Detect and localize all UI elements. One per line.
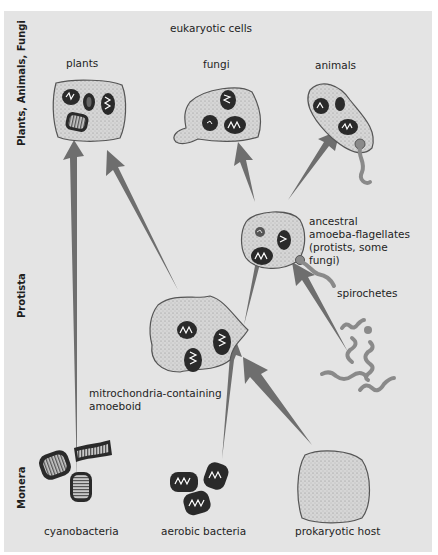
arrow-cyanobacteria-to-plants xyxy=(63,140,84,482)
cyanobacteria-group xyxy=(36,440,112,502)
kingdom-label-monera: Monera xyxy=(16,467,27,509)
label-spirochetes: spirochetes xyxy=(337,287,398,299)
label-fungi: fungi xyxy=(203,58,230,70)
arrow-ancestral-to-fungi xyxy=(234,142,255,202)
label-amoeboid-line1: mitrochondria-containing xyxy=(89,387,222,399)
label-ancestral-line1: ancestral xyxy=(309,215,358,227)
spirochete-knob xyxy=(364,326,372,334)
diagram-title: eukaryotic cells xyxy=(170,22,252,34)
arrow-host-to-amoeboid xyxy=(243,357,312,445)
kingdom-label-protista: Protista xyxy=(16,273,27,318)
label-amoeboid-line2: amoeboid xyxy=(89,400,141,412)
label-ancestral-line3: (protists, some xyxy=(309,241,388,253)
label-animals: animals xyxy=(315,59,356,71)
label-plants: plants xyxy=(66,57,98,69)
label-prokaryotic-host: prokaryotic host xyxy=(295,525,380,537)
fungi-cell xyxy=(174,88,261,144)
endosymbiosis-diagram xyxy=(0,0,438,555)
label-cyanobacteria: cyanobacteria xyxy=(44,525,119,537)
plant-cell xyxy=(53,80,125,141)
label-ancestral-line4: fungi) xyxy=(309,254,340,266)
label-aerobic-bacteria: aerobic bacteria xyxy=(161,525,246,537)
prokaryotic-host xyxy=(298,451,370,523)
kingdom-label-plants-animals-fungi: Plants, Animals, Fungi xyxy=(16,20,27,146)
arrow-ancestral-to-animals xyxy=(288,130,340,200)
animal-cell xyxy=(308,84,373,183)
arrow-amoeboid-to-plants xyxy=(106,150,178,290)
label-ancestral-line2: amoeba-flagellates xyxy=(309,228,410,240)
aerobic-bacteria-group xyxy=(170,460,231,517)
spirochetes xyxy=(322,320,394,390)
